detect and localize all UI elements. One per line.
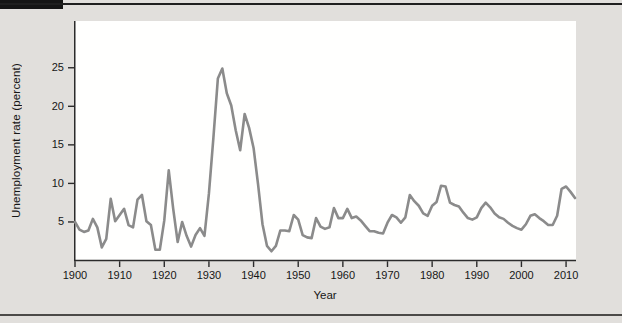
y-tick-label: 10 [34, 177, 64, 190]
x-tick-label: 1900 [53, 269, 97, 282]
x-tick-label: 1970 [366, 269, 410, 282]
x-axis-title: Year [74, 289, 576, 301]
x-tick-label: 1980 [410, 269, 454, 282]
x-tick-label: 1920 [142, 269, 186, 282]
x-tick-label: 1930 [187, 269, 231, 282]
textbook-figure: Unemployment rate (percent) Year 1900191… [0, 0, 622, 323]
unemployment-rate-line [75, 69, 575, 252]
x-tick-label: 1990 [455, 269, 499, 282]
y-tick-label: 5 [34, 215, 64, 228]
x-tick-label: 1960 [321, 269, 365, 282]
y-tick-label: 25 [34, 61, 64, 74]
x-tick-label: 1910 [98, 269, 142, 282]
x-tick-label: 2000 [499, 269, 543, 282]
y-tick-label: 20 [34, 100, 64, 113]
x-tick-label: 1950 [276, 269, 320, 282]
y-axis-title: Unemployment rate (percent) [10, 21, 22, 261]
y-tick-label: 15 [34, 138, 64, 151]
x-tick-label: 2010 [544, 269, 588, 282]
bottom-rule [0, 314, 622, 316]
x-tick-label: 1940 [232, 269, 276, 282]
